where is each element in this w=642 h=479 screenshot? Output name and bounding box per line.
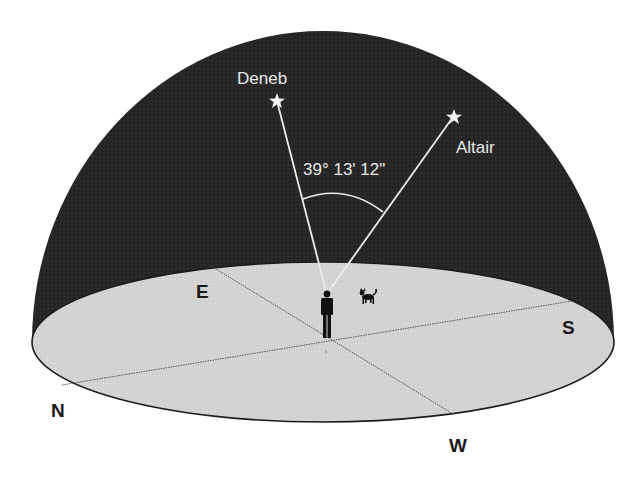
zenith-foot-marker bbox=[325, 351, 327, 353]
celestial-sphere-diagram: Deneb Altair 39° 13' 12" E S N W bbox=[0, 0, 642, 479]
star-label-altair: Altair bbox=[456, 138, 495, 157]
direction-label-east: E bbox=[196, 281, 209, 302]
star-label-deneb: Deneb bbox=[237, 69, 287, 88]
direction-label-north: N bbox=[51, 400, 65, 421]
angle-label: 39° 13' 12" bbox=[303, 160, 385, 179]
direction-label-west: W bbox=[449, 435, 467, 456]
horizon-plane bbox=[32, 262, 614, 422]
direction-label-south: S bbox=[562, 317, 575, 338]
